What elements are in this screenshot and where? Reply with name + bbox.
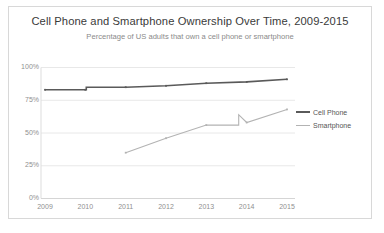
x-tick-label: 2009 [28, 203, 62, 210]
data-point [165, 137, 167, 139]
x-tick-label: 2010 [68, 203, 102, 210]
x-tick-label: 2011 [109, 203, 143, 210]
legend-label: Smartphone [313, 122, 351, 129]
legend-line-icon [296, 125, 310, 126]
chart-legend: Cell PhoneSmartphone [296, 106, 370, 132]
chart-frame: Cell Phone and Smartphone Ownership Over… [8, 6, 372, 219]
legend-line-icon [296, 111, 310, 113]
data-point [84, 89, 86, 91]
legend-item-smartphone[interactable]: Smartphone [296, 119, 370, 131]
y-tick-label: 25% [13, 161, 39, 168]
series-line-cell-phone [45, 79, 287, 90]
x-tick-label: 2012 [149, 203, 183, 210]
y-tick-label: 0% [13, 194, 39, 201]
data-point [286, 78, 288, 80]
legend-label: Cell Phone [313, 109, 347, 116]
data-point [246, 81, 248, 83]
data-point [125, 152, 127, 154]
series-lines [44, 78, 288, 153]
y-tick-label: 100% [13, 63, 39, 70]
gridlines [41, 68, 295, 199]
data-point [205, 124, 207, 126]
x-tick-label: 2013 [189, 203, 223, 210]
data-point [125, 86, 127, 88]
x-tick-label: 2014 [230, 203, 264, 210]
series-line-smartphone [126, 109, 287, 152]
data-point [246, 122, 248, 124]
y-tick-label: 50% [13, 129, 39, 136]
legend-item-cell-phone[interactable]: Cell Phone [296, 106, 370, 118]
x-tick-label: 2015 [270, 203, 304, 210]
data-point [286, 109, 288, 111]
data-point [165, 85, 167, 87]
y-tick-label: 75% [13, 96, 39, 103]
data-point [44, 89, 46, 91]
data-point [205, 82, 207, 84]
